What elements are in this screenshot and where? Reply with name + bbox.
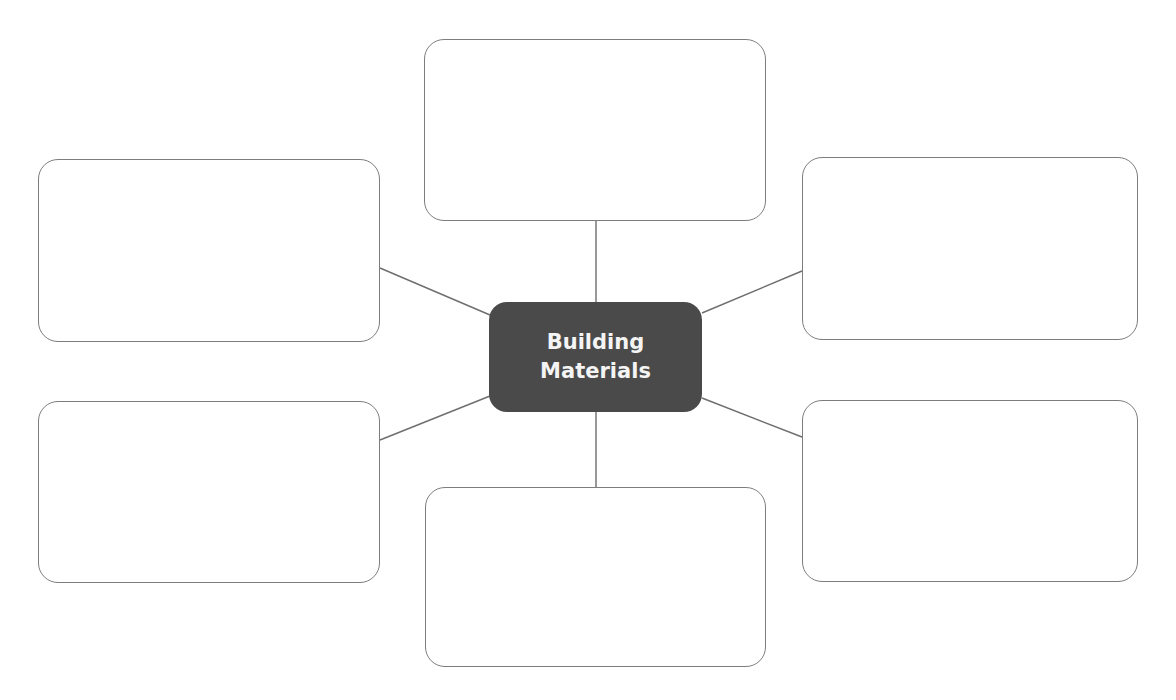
box-upper-left[interactable] [38,159,380,342]
mind-map-canvas: Building Materials [0,0,1176,700]
box-bottom[interactable] [425,487,766,667]
connector-lower-right [702,398,802,437]
box-top[interactable] [424,39,766,221]
center-node: Building Materials [489,302,702,412]
connector-upper-left [380,268,490,315]
connector-lower-left [380,396,490,440]
center-node-label: Building Materials [540,328,651,386]
box-lower-left[interactable] [38,401,380,583]
box-upper-right[interactable] [802,157,1138,340]
connector-upper-right [702,271,802,313]
box-lower-right[interactable] [802,400,1138,582]
